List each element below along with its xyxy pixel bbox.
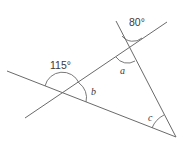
angle-label-115: 115° <box>50 59 71 71</box>
line-1 <box>25 22 167 118</box>
angle-label-b: b <box>91 86 96 97</box>
angle-diagram: 80° 115° a b c <box>0 0 187 149</box>
line-2 <box>7 71 176 137</box>
angle-label-80: 80° <box>129 16 145 28</box>
arc-c <box>152 115 164 128</box>
angle-label-a: a <box>120 65 125 76</box>
arc-a <box>116 57 135 63</box>
angle-label-c: c <box>148 112 153 123</box>
arc-115 <box>45 72 79 86</box>
